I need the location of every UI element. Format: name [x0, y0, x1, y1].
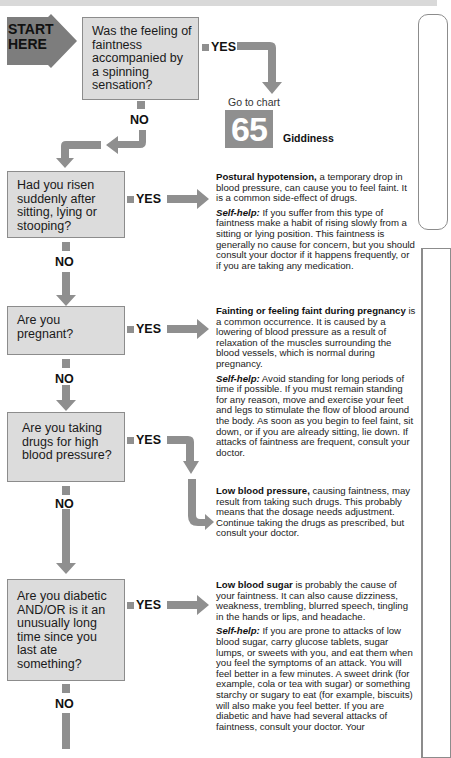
no-label-q4: NO	[55, 497, 74, 511]
yes-label-q2: YES	[136, 192, 161, 206]
start-here-label: START HERE	[8, 22, 54, 52]
no-label-q2: NO	[55, 255, 74, 269]
side-panel-rounded	[418, 14, 448, 230]
yes-label-q5: YES	[136, 598, 161, 612]
yes-label-q1: YES	[211, 40, 236, 54]
answer-pregnancy: Fainting or feeling faint during pregnan…	[216, 306, 416, 462]
question-risen-suddenly[interactable]: Had you risen suddenly after sitting, ly…	[7, 171, 125, 238]
chart-title-giddiness[interactable]: Giddiness	[283, 132, 334, 144]
go-to-chart-label: Go to chart	[228, 96, 280, 108]
answer-low-blood-sugar: Low blood sugar is probably the cause of…	[216, 580, 416, 736]
question-blood-pressure-drugs[interactable]: Are you taking drugs for high blood pres…	[7, 412, 125, 482]
no-label-q3: NO	[55, 372, 74, 386]
question-pregnant[interactable]: Are you pregnant?	[7, 306, 125, 355]
question-spinning-sensation[interactable]: Was the feeling of faintness accompanied…	[82, 17, 199, 100]
yes-label-q4: YES	[136, 433, 161, 447]
no-label-q5: NO	[55, 697, 74, 711]
no-label-q1: NO	[130, 113, 149, 127]
yes-label-q3: YES	[136, 322, 161, 336]
chart-number-link[interactable]: 65	[225, 110, 273, 148]
answer-postural-hypotension: Postural hypotension, a temporary drop i…	[216, 172, 416, 275]
answer-low-blood-pressure: Low blood pressure, causing faintness, m…	[216, 486, 416, 543]
side-panel-box	[421, 248, 451, 758]
question-diabetic[interactable]: Are you diabetic AND/OR is it an unusual…	[7, 579, 125, 681]
